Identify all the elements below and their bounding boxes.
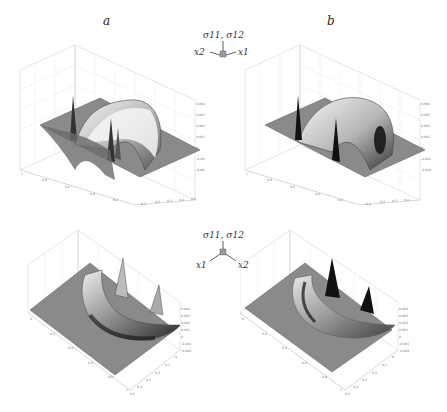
svg-text:0.4: 0.4 [179,198,184,202]
svg-text:0: 0 [392,355,394,359]
svg-text:0.8: 0.8 [42,178,47,182]
y-axis-ticks: 0 0.1 0.2 0.3 0.4 0.5 [130,355,177,396]
svg-text:0.6: 0.6 [88,361,93,365]
svg-text:0.1: 0.1 [382,363,387,367]
panel-label-a: a [103,14,110,28]
svg-text:0.8: 0.8 [267,178,272,182]
svg-text:0.004: 0.004 [196,102,205,106]
z-axis-ticks: 0.004 0.003 0.002 0.001 0 -0.001 -0.002 [399,307,409,353]
svg-text:0.4: 0.4 [404,198,409,202]
svg-text:-0.001: -0.001 [196,157,205,161]
svg-text:0.2: 0.2 [113,198,118,202]
svg-text:0.2: 0.2 [50,332,55,336]
svg-text:0.002: 0.002 [181,321,190,325]
svg-text:0.3: 0.3 [362,378,367,382]
svg-text:-0.002: -0.002 [181,349,191,353]
svg-text:0: 0 [175,355,177,359]
svg-text:-0.002: -0.002 [399,349,409,353]
svg-text:0.003: 0.003 [421,113,430,117]
svg-text:0.001: 0.001 [181,328,190,332]
svg-text:0.3: 0.3 [392,199,397,203]
svg-text:0.1: 0.1 [366,202,371,205]
svg-text:0.002: 0.002 [399,321,408,325]
svg-text:0.8: 0.8 [322,375,327,379]
svg-text:0.2: 0.2 [372,371,377,375]
glyph-top-vertical-label: σ11, σ12 [203,30,244,40]
svg-text:-0.001: -0.001 [399,342,409,346]
svg-text:-0.001: -0.001 [421,157,431,161]
x-axis-ticks: 1 0.8 0.6 0.4 0.2 [246,172,343,202]
svg-text:0.003: 0.003 [181,314,190,318]
svg-text:0.001: 0.001 [421,135,430,139]
svg-text:0.5: 0.5 [130,392,135,396]
svg-text:0: 0 [399,335,401,339]
svg-text:0.001: 0.001 [196,135,205,139]
svg-text:0.4: 0.4 [68,346,73,350]
y-axis-ticks: 0 0.1 0.2 0.3 0.4 0.5 [345,355,394,396]
svg-text:0: 0 [242,317,244,321]
svg-text:0.003: 0.003 [196,113,205,117]
svg-text:1: 1 [21,172,23,176]
svg-text:0: 0 [196,146,198,150]
svg-text:0.5: 0.5 [345,392,350,396]
svg-text:0.4: 0.4 [282,346,287,350]
svg-text:0: 0 [30,317,32,321]
svg-text:0.001: 0.001 [399,328,408,332]
svg-text:0.2: 0.2 [262,332,267,336]
surface-plot-bottom-b: 0.004 0.003 0.002 0.001 0 -0.001 -0.002 … [240,230,430,400]
svg-text:0.002: 0.002 [421,124,430,128]
svg-text:0.3: 0.3 [167,199,172,203]
svg-text:0.5: 0.5 [191,197,196,201]
z-axis-ticks: 0.004 0.003 0.002 0.001 0 -0.001 -0.002 [181,307,191,353]
surface-plot-top-a: 0.004 0.003 0.002 0.001 0 -0.001 -0.002 … [15,40,205,205]
x-axis-ticks: 1 0.8 0.6 0.4 0.2 [21,172,118,202]
svg-text:0.004: 0.004 [181,307,190,311]
svg-text:0.004: 0.004 [399,307,408,311]
svg-text:0.4: 0.4 [353,385,358,389]
svg-text:0.003: 0.003 [399,314,408,318]
svg-text:0.2: 0.2 [380,200,385,204]
svg-text:0.6: 0.6 [302,361,307,365]
svg-text:0.3: 0.3 [146,378,151,382]
surface-plot-top-b: 0.004 0.003 0.002 0.001 0 -0.001 -0.002 … [240,40,435,205]
svg-text:0.4: 0.4 [137,385,142,389]
svg-text:0.6: 0.6 [65,185,70,189]
svg-text:-0.001: -0.001 [181,342,191,346]
svg-text:0: 0 [181,335,183,339]
z-axis-ticks: 0.004 0.003 0.002 0.001 0 -0.001 -0.002 [196,102,205,172]
panel-label-b: b [327,14,335,28]
svg-text:0.002: 0.002 [196,124,205,128]
svg-text:1: 1 [246,172,248,176]
svg-text:0.8: 0.8 [108,375,113,379]
svg-text:0.4: 0.4 [90,192,95,196]
svg-text:0: 0 [421,146,423,150]
svg-text:0.4: 0.4 [315,192,320,196]
svg-text:1: 1 [340,388,342,392]
svg-text:0.2: 0.2 [338,198,343,202]
svg-text:0.2: 0.2 [155,371,160,375]
svg-text:-0.002: -0.002 [196,168,205,172]
surface-plot-bottom-a: 0.004 0.003 0.002 0.001 0 -0.001 -0.002 … [20,230,210,400]
svg-text:0.004: 0.004 [421,102,430,106]
svg-text:0.1: 0.1 [165,363,170,367]
z-axis-ticks: 0.004 0.003 0.002 0.001 0 -0.001 -0.002 [421,102,431,172]
svg-text:1: 1 [126,388,128,392]
svg-text:0.1: 0.1 [141,202,146,205]
svg-text:0.6: 0.6 [290,185,295,189]
svg-text:-0.002: -0.002 [421,168,431,172]
svg-text:0.2: 0.2 [155,200,160,204]
